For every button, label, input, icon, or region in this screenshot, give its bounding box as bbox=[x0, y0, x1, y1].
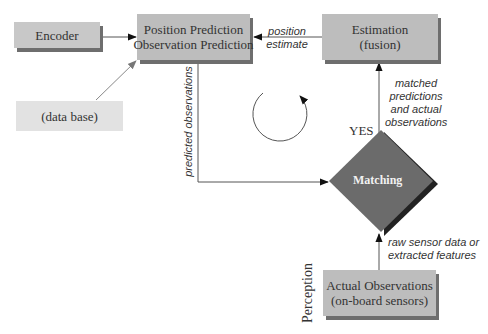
estimation-line2: (fusion) bbox=[359, 37, 400, 52]
prediction-box: Position Prediction Observation Predicti… bbox=[137, 14, 250, 60]
position-estimate-line1: position bbox=[257, 25, 317, 38]
observations-box: Actual Observations (on-board sensors) bbox=[323, 270, 436, 316]
matched-line3: and actual bbox=[385, 103, 447, 116]
raw-sensor-line2: extracted features bbox=[388, 249, 478, 262]
encoder-label: Encoder bbox=[35, 28, 78, 43]
cycle-arrow-icon bbox=[253, 93, 307, 141]
database-label: (data base) bbox=[41, 109, 98, 124]
observations-line2: (on-board sensors) bbox=[331, 293, 428, 308]
prediction-line2: Observation Prediction bbox=[133, 37, 253, 52]
position-estimate-label: position estimate bbox=[257, 25, 317, 51]
matched-line4: observations bbox=[385, 116, 447, 129]
predicted-observations-label: predicted observations bbox=[182, 62, 195, 182]
edge-prediction-to-matching bbox=[198, 64, 328, 182]
encoder-box: Encoder bbox=[14, 22, 100, 48]
perception-label: Perception bbox=[300, 258, 316, 328]
matched-label: matched predictions and actual observati… bbox=[385, 77, 447, 129]
estimation-box: Estimation (fusion) bbox=[322, 14, 438, 60]
matched-line2: predictions bbox=[385, 90, 447, 103]
raw-sensor-label: raw sensor data or extracted features bbox=[388, 236, 478, 262]
estimation-line1: Estimation bbox=[352, 22, 408, 37]
observations-line1: Actual Observations bbox=[326, 278, 433, 293]
edge-database-to-prediction bbox=[96, 61, 136, 100]
raw-sensor-line1: raw sensor data or bbox=[388, 236, 478, 249]
matching-label: Matching bbox=[353, 173, 402, 188]
position-estimate-line2: estimate bbox=[257, 38, 317, 51]
yes-label: YES bbox=[349, 123, 374, 139]
database-box: (data base) bbox=[16, 101, 123, 131]
matched-line1: matched bbox=[385, 77, 447, 90]
prediction-line1: Position Prediction bbox=[144, 22, 243, 37]
